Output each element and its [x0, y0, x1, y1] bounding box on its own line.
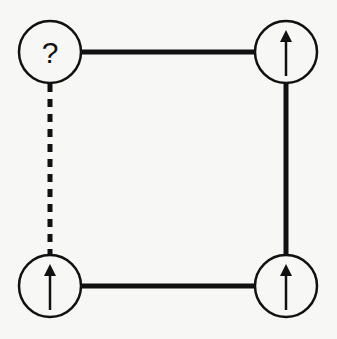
question-mark-icon: ?: [42, 36, 59, 69]
node-bottom-left: [19, 255, 81, 317]
node-top-right: [255, 21, 317, 83]
spin-plaquette-diagram: ?: [0, 0, 337, 339]
node-top-left: ?: [19, 21, 81, 83]
node-bottom-right: [255, 255, 317, 317]
